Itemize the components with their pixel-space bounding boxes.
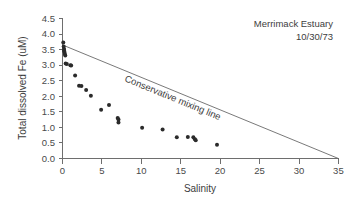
data-point: [215, 143, 219, 147]
y-tick-labels: 0.0 0.5 1.0 1.5 2.0 2.5 3.0 3.5 4.0 4.5: [42, 13, 55, 164]
y-tick-label: 4.5: [42, 13, 55, 24]
data-point: [69, 63, 73, 67]
y-axis-title: Total dissolved Fe (uM): [17, 36, 28, 139]
y-ticks: [59, 19, 63, 159]
x-tick-labels: 0 5 10 15 20 25 30 35: [60, 165, 344, 176]
x-tick-label: 30: [294, 165, 305, 176]
data-point: [107, 103, 111, 107]
data-point: [140, 126, 144, 130]
scatter-plot: 0.0 0.5 1.0 1.5 2.0 2.5 3.0 3.5 4.0 4.5 …: [0, 0, 354, 202]
data-point: [65, 62, 69, 66]
date-label: 10/30/73: [296, 31, 333, 42]
data-point: [194, 138, 198, 142]
x-tick-label: 35: [333, 165, 344, 176]
x-tick-label: 10: [136, 165, 147, 176]
data-point: [84, 88, 88, 92]
data-point: [116, 120, 120, 124]
y-tick-label: 2.0: [42, 91, 55, 102]
data-point: [61, 40, 65, 44]
x-tick-label: 0: [60, 165, 65, 176]
x-tick-label: 15: [175, 165, 186, 176]
data-point: [79, 84, 83, 88]
data-point: [161, 128, 165, 132]
data-point: [99, 108, 103, 112]
y-tick-label: 2.5: [42, 75, 55, 86]
data-point-group: [61, 40, 219, 146]
site-label: Merrimack Estuary: [254, 18, 333, 29]
data-point: [73, 73, 77, 77]
y-tick-label: 4.0: [42, 28, 55, 39]
y-tick-label: 0.0: [42, 153, 55, 164]
conservative-mixing-line-label: Conservative mixing line: [123, 73, 222, 122]
x-axis-title: Salinity: [184, 183, 216, 194]
data-point: [89, 94, 93, 98]
data-point: [63, 54, 67, 58]
x-tick-label: 20: [215, 165, 226, 176]
y-tick-label: 3.0: [42, 59, 55, 70]
y-tick-label: 0.5: [42, 137, 55, 148]
data-point: [186, 135, 190, 139]
figure-container: 0.0 0.5 1.0 1.5 2.0 2.5 3.0 3.5 4.0 4.5 …: [0, 0, 354, 202]
x-ticks: [63, 159, 339, 164]
y-tick-label: 1.0: [42, 122, 55, 133]
y-tick-label: 1.5: [42, 106, 55, 117]
y-tick-label: 3.5: [42, 44, 55, 55]
x-tick-label: 5: [99, 165, 104, 176]
x-tick-label: 25: [254, 165, 265, 176]
data-point: [175, 135, 179, 139]
